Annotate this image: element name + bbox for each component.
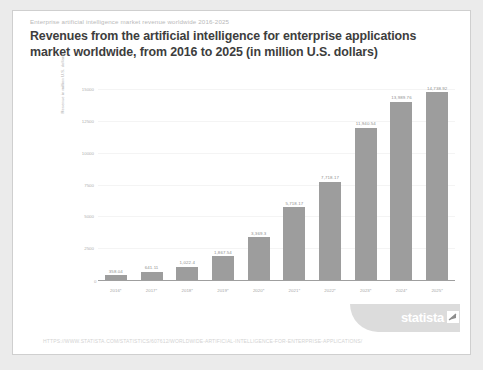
bar-item[interactable]: 5,718.172021* — [277, 79, 313, 280]
x-axis-tick-label: 2025* — [431, 288, 442, 293]
x-axis-tick-label: 2021* — [289, 288, 300, 293]
x-axis-tick-label: 2022* — [324, 288, 335, 293]
statista-chart-card: Enterprise artificial intelligence marke… — [12, 10, 471, 355]
bar-item[interactable]: 13,989.762024* — [384, 79, 420, 280]
bar[interactable] — [355, 128, 377, 280]
chart-eyebrow-label: Enterprise artificial intelligence marke… — [30, 18, 229, 25]
bar-item[interactable]: 11,940.542023* — [348, 79, 384, 280]
bar[interactable] — [212, 256, 234, 280]
y-axis-tick-label: 12500 — [68, 118, 94, 123]
bar-item[interactable]: 14,738.922025* — [419, 79, 455, 280]
y-axis-tick-label: 5000 — [68, 214, 94, 219]
x-axis-tick-label: 2018* — [182, 288, 193, 293]
x-axis-tick-label: 2016* — [110, 288, 121, 293]
bar-value-label: 1,022.4 — [180, 260, 195, 265]
bar-value-label: 13,989.76 — [391, 95, 411, 100]
y-axis-title: Revenue in million U.S. dollars — [60, 29, 65, 139]
screenshot-canvas: Enterprise artificial intelligence marke… — [0, 0, 483, 370]
bar-value-label: 358.04 — [109, 269, 123, 274]
bar-item[interactable]: 7,718.172022* — [312, 79, 348, 280]
x-axis-tick-label: 2023* — [360, 288, 371, 293]
y-axis-tick-label: 2500 — [68, 246, 94, 251]
source-url[interactable]: HTTPS://WWW.STATISTA.COM/STATISTICS/6076… — [43, 338, 362, 344]
x-axis-tick-label: 2024* — [396, 288, 407, 293]
chart-title: Revenues from the artificial intelligenc… — [30, 29, 450, 60]
bar-value-label: 3,369.3 — [251, 231, 266, 236]
bar[interactable] — [105, 275, 127, 280]
bar-item[interactable]: 641.112017* — [134, 79, 170, 280]
logo-arrow-icon — [447, 311, 459, 323]
bar-item[interactable]: 3,369.32020* — [241, 79, 277, 280]
bar-item[interactable]: 358.042016* — [98, 79, 134, 280]
bar-value-label: 7,718.17 — [321, 175, 339, 180]
y-axis-tick-label: 10000 — [68, 150, 94, 155]
bar[interactable] — [176, 267, 198, 280]
bar[interactable] — [426, 92, 448, 280]
bar-item[interactable]: 1,022.42018* — [169, 79, 205, 280]
y-axis-tick-label: 15000 — [68, 87, 94, 92]
statista-logo[interactable]: statista — [350, 304, 460, 332]
x-axis-line — [98, 280, 455, 281]
y-axis-zero-label: 0 — [94, 279, 96, 284]
bar-item[interactable]: 1,867.542019* — [205, 79, 241, 280]
bar-value-label: 1,867.54 — [214, 250, 232, 255]
bar-value-label: 11,940.54 — [356, 121, 376, 126]
x-axis-tick-label: 2019* — [217, 288, 228, 293]
bar[interactable] — [283, 207, 305, 280]
logo-wordmark: statista — [401, 310, 444, 325]
chart-plot-area: Revenue in million U.S. dollars 25005000… — [30, 79, 455, 299]
bar-value-label: 641.11 — [145, 265, 159, 270]
bar[interactable] — [319, 182, 341, 280]
bar[interactable] — [390, 102, 412, 280]
bar[interactable] — [248, 237, 270, 280]
bar-value-label: 5,718.17 — [285, 201, 303, 206]
bar-value-label: 14,738.92 — [427, 86, 447, 91]
x-axis-tick-label: 2020* — [253, 288, 264, 293]
bar[interactable] — [141, 272, 163, 280]
y-axis-tick-label: 7500 — [68, 182, 94, 187]
x-axis-tick-label: 2017* — [146, 288, 157, 293]
bar-series: 358.042016*641.112017*1,022.42018*1,867.… — [98, 79, 455, 280]
